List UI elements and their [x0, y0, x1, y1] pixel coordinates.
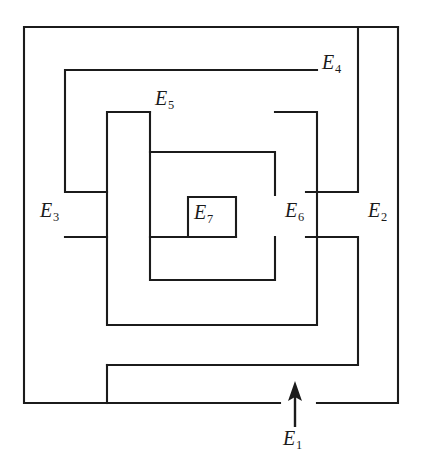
- region-label-e5-base: E: [155, 87, 167, 109]
- region-label-e7: E7: [194, 202, 212, 222]
- region-label-e4-sub: 4: [335, 62, 341, 76]
- region-label-e7-base: E: [194, 201, 206, 223]
- region-label-e6-base: E: [285, 199, 297, 221]
- region-label-e1-base: E: [283, 427, 295, 449]
- region-label-e2-sub: 2: [381, 210, 387, 224]
- ring4-upper-wall: [150, 152, 275, 195]
- region-label-e3-base: E: [40, 199, 52, 221]
- region-label-e1: E1: [283, 428, 301, 448]
- region-label-e4: E4: [322, 52, 340, 72]
- region-label-e3-sub: 3: [53, 210, 59, 224]
- region-label-e6: E6: [285, 200, 303, 220]
- region-label-e2: E2: [368, 200, 386, 220]
- labyrinth-figure: E1 E2 E3 E4 E5 E6 E7: [0, 0, 422, 462]
- region-label-e3: E3: [40, 200, 58, 220]
- ring2-bottom-arm: [107, 237, 358, 365]
- region-label-e1-sub: 1: [296, 438, 302, 452]
- region-label-e6-sub: 6: [298, 210, 304, 224]
- region-label-e5-sub: 5: [168, 98, 174, 112]
- region-label-e7-sub: 7: [207, 212, 213, 226]
- region-label-e4-base: E: [322, 51, 334, 73]
- labyrinth-drawing: [0, 0, 422, 462]
- ring2-top-arm: [65, 70, 317, 192]
- region-label-e5: E5: [155, 88, 173, 108]
- region-label-e2-base: E: [368, 199, 380, 221]
